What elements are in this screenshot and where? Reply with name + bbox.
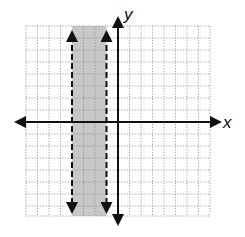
coordinate-plane: x y: [0, 0, 245, 237]
x-axis-label: x: [222, 113, 232, 132]
y-axis-label: y: [123, 5, 134, 24]
